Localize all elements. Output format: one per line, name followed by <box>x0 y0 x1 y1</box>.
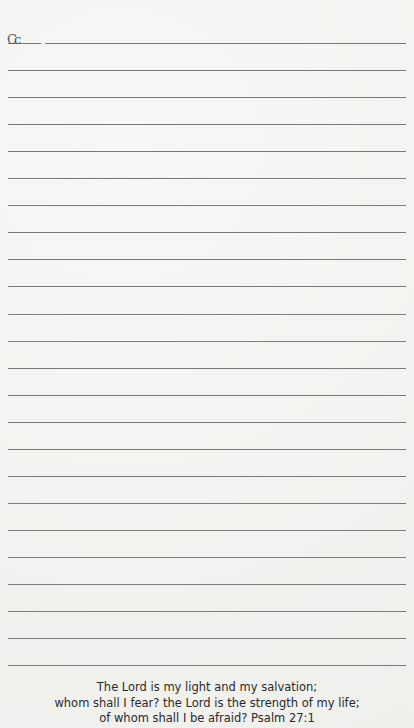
ruled-line <box>8 557 406 558</box>
ruled-line <box>8 638 406 639</box>
verse-line: of whom shall I be afraid? Psalm 27:1 <box>0 711 414 727</box>
ruled-line <box>8 259 406 260</box>
ruled-line <box>8 205 406 206</box>
ruled-line <box>8 124 406 125</box>
ruled-line <box>8 286 406 287</box>
ruled-line <box>8 43 406 44</box>
ruled-line <box>8 368 406 369</box>
ruled-line <box>8 449 406 450</box>
ruled-line <box>8 314 406 315</box>
ruled-line <box>8 70 406 71</box>
ruled-line <box>8 530 406 531</box>
ruled-line <box>8 97 406 98</box>
lined-notepaper: Cc The Lord is my light and my salvation… <box>0 0 414 728</box>
ruled-line <box>8 151 406 152</box>
ruled-line <box>8 503 406 504</box>
ruled-line <box>8 395 406 396</box>
ruled-line <box>8 584 406 585</box>
ruled-line <box>8 611 406 612</box>
line-gap <box>41 42 45 45</box>
handwritten-mark: Cc <box>7 32 18 47</box>
ruled-line <box>8 422 406 423</box>
verse-line: whom shall I fear? the Lord is the stren… <box>0 696 414 712</box>
scripture-verse: The Lord is my light and my salvation; w… <box>0 680 414 727</box>
ruled-line <box>8 341 406 342</box>
ruled-line <box>8 178 406 179</box>
ruled-line <box>8 232 406 233</box>
verse-line: The Lord is my light and my salvation; <box>0 680 414 696</box>
ruled-line <box>8 665 406 666</box>
ruled-line <box>8 476 406 477</box>
